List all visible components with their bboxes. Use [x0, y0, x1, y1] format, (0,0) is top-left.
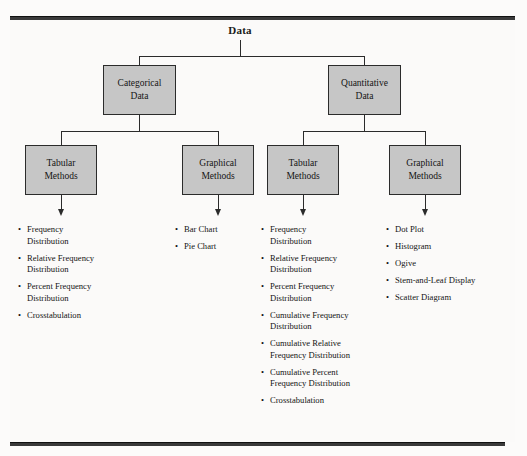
list-item[interactable]: • Stem-and-Leaf Display [386, 275, 511, 287]
list-item-text: Cumulative Relative Frequency Distributi… [270, 338, 389, 361]
list-item[interactable]: • Pie Chart [175, 241, 270, 253]
node-label-line: Data [356, 90, 374, 103]
list-item[interactable]: • Percent Frequency Distribution [261, 281, 389, 304]
bullet-icon: • [261, 395, 264, 407]
node-label-line: Quantitative [341, 77, 388, 90]
node-label-line: Categorical [118, 77, 162, 90]
list-item-text: Crosstabulation [27, 310, 143, 322]
node-label-line: Methods [44, 170, 77, 183]
list-item[interactable]: • Frequency Distribution [18, 224, 143, 247]
node-quantitative-graphical-methods[interactable]: Graphical Methods [389, 145, 461, 195]
connector-categorical-stem [139, 115, 140, 131]
bullet-icon: • [261, 253, 264, 265]
list-item-text: Pie Chart [184, 241, 270, 253]
arrow-down-icon [300, 209, 306, 216]
list-item[interactable]: • Relative Frequency Distribution [18, 253, 143, 276]
list-item[interactable]: • Crosstabulation [18, 310, 143, 322]
list-item[interactable]: • Frequency Distribution [261, 224, 389, 247]
bottom-rule [10, 442, 505, 446]
node-label-line: Graphical [406, 157, 443, 170]
node-categorical-tabular-methods[interactable]: Tabular Methods [25, 145, 97, 195]
list-item-text: Cumulative Percent Frequency Distributio… [270, 367, 389, 390]
bullet-icon: • [386, 258, 389, 270]
bullet-icon: • [261, 224, 264, 236]
connector-categorical-bus [61, 131, 218, 132]
list-item-text: Stem-and-Leaf Display [395, 275, 511, 287]
node-quantitative-data[interactable]: Quantitative Data [328, 65, 401, 115]
list-item-text: Crosstabulation [270, 395, 389, 407]
list-item-text: Percent Frequency Distribution [270, 281, 389, 304]
list-item-text: Ogive [395, 258, 511, 270]
connector-to-quantitative [364, 56, 365, 65]
arrow-down-icon [58, 209, 64, 216]
node-categorical-graphical-methods[interactable]: Graphical Methods [182, 145, 254, 195]
arrow-down-icon [422, 209, 428, 216]
list-item-text: Frequency Distribution [270, 224, 389, 247]
node-label-line: Tabular [47, 157, 76, 170]
bullet-icon: • [261, 367, 264, 379]
list-item[interactable]: • Bar Chart [175, 224, 270, 236]
connector-root-stem [240, 40, 241, 56]
list-item[interactable]: • Percent Frequency Distribution [18, 281, 143, 304]
list-item-text: Relative Frequency Distribution [270, 253, 389, 276]
node-label-line: Methods [286, 170, 319, 183]
connector-to-categorical [139, 56, 140, 65]
list-item[interactable]: • Cumulative Frequency Distribution [261, 310, 389, 333]
node-label-line: Data [131, 90, 149, 103]
list-item-text: Cumulative Frequency Distribution [270, 310, 389, 333]
list-item-text: Percent Frequency Distribution [27, 281, 143, 304]
list-item[interactable]: • Cumulative Relative Frequency Distribu… [261, 338, 389, 361]
list-item[interactable]: • Cumulative Percent Frequency Distribut… [261, 367, 389, 390]
list-item-text: Histogram [395, 241, 511, 253]
node-label-line: Methods [201, 170, 234, 183]
list-item-text: Bar Chart [184, 224, 270, 236]
arrow-down-icon [215, 209, 221, 216]
connector-root-bus [139, 56, 365, 57]
node-label-line: Methods [408, 170, 441, 183]
bullet-icon: • [261, 310, 264, 322]
list-item[interactable]: • Dot Plot [386, 224, 511, 236]
list-item[interactable]: • Histogram [386, 241, 511, 253]
bullet-icon: • [175, 224, 178, 236]
bullet-icon: • [386, 241, 389, 253]
bullet-icon: • [261, 281, 264, 293]
list-item-text: Scatter Diagram [395, 292, 511, 304]
list-item-text: Frequency Distribution [27, 224, 143, 247]
bullet-icon: • [386, 292, 389, 304]
root-node-data: Data [200, 24, 280, 36]
list-quantitative-graphical: • Dot Plot • Histogram • Ogive • Stem-an… [386, 224, 511, 309]
bullet-icon: • [18, 253, 21, 265]
diagram-page: Data Categorical Data Quantitative Data … [0, 0, 527, 456]
bullet-icon: • [386, 275, 389, 287]
bullet-icon: • [261, 338, 264, 350]
bullet-icon: • [386, 224, 389, 236]
node-label-line: Tabular [289, 157, 318, 170]
list-item[interactable]: • Crosstabulation [261, 395, 389, 407]
list-item[interactable]: • Scatter Diagram [386, 292, 511, 304]
connector-quant-to-graphical [425, 131, 426, 145]
bullet-icon: • [175, 241, 178, 253]
list-quantitative-tabular: • Frequency Distribution • Relative Freq… [261, 224, 389, 412]
connector-cat-to-tabular [61, 131, 62, 145]
connector-cat-to-graphical [218, 131, 219, 145]
top-rule [10, 16, 515, 20]
node-categorical-data[interactable]: Categorical Data [103, 65, 176, 115]
list-categorical-graphical: • Bar Chart • Pie Chart [175, 224, 270, 258]
list-item-text: Relative Frequency Distribution [27, 253, 143, 276]
bullet-icon: • [18, 310, 21, 322]
node-label-line: Graphical [199, 157, 236, 170]
list-item-text: Dot Plot [395, 224, 511, 236]
list-item[interactable]: • Ogive [386, 258, 511, 270]
bullet-icon: • [18, 224, 21, 236]
connector-quantitative-stem [364, 115, 365, 131]
list-categorical-tabular: • Frequency Distribution • Relative Freq… [18, 224, 143, 327]
connector-quant-to-tabular [303, 131, 304, 145]
list-item[interactable]: • Relative Frequency Distribution [261, 253, 389, 276]
node-quantitative-tabular-methods[interactable]: Tabular Methods [267, 145, 339, 195]
connector-quantitative-bus [303, 131, 425, 132]
bullet-icon: • [18, 281, 21, 293]
